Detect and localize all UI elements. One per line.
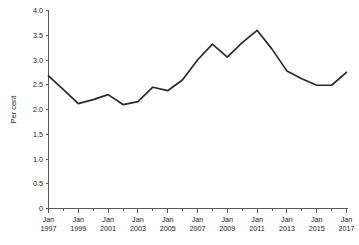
x-tick-label: Jan2015 <box>309 215 325 233</box>
x-tick-label: Jan2011 <box>249 215 264 233</box>
y-tick-label: 4.0 <box>33 6 43 15</box>
y-tick-label: 0 <box>39 204 43 213</box>
x-tick-label: Jan2001 <box>100 215 116 233</box>
x-tick-label: Jan2005 <box>160 215 176 233</box>
y-tick-label: 2.0 <box>33 105 43 114</box>
y-tick-label: 1.5 <box>33 130 43 139</box>
x-tick-label: Jan2003 <box>130 215 146 233</box>
y-tick-label: 3.5 <box>33 31 43 40</box>
y-axis-title: Per cent <box>9 96 18 124</box>
y-tick-label: 0.5 <box>33 179 43 188</box>
x-tick-label: Jan1997 <box>41 215 57 233</box>
y-tick-label: 1.0 <box>33 155 43 164</box>
line-chart: 00.51.01.52.02.53.03.54.0 Jan1997Jan1999… <box>0 0 359 245</box>
x-tick-label: Jan2017 <box>339 215 355 233</box>
y-axis-title-text: Per cent <box>9 96 18 124</box>
x-tick-label: Jan1999 <box>70 215 86 233</box>
x-tick-label: Jan2009 <box>219 215 235 233</box>
x-tick-label: Jan2013 <box>279 215 295 233</box>
x-tick-label: Jan2007 <box>190 215 206 233</box>
y-tick-label: 2.5 <box>33 80 43 89</box>
chart-container: 00.51.01.52.02.53.03.54.0 Jan1997Jan1999… <box>0 0 359 245</box>
y-tick-label: 3.0 <box>33 56 43 65</box>
